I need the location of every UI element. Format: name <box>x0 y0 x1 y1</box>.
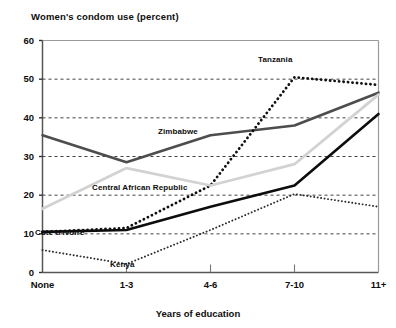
series-line-tanzania <box>43 77 379 232</box>
x-tick-label: None <box>13 279 73 290</box>
chart-figure: Women's condom use (percent) 01020304050… <box>0 0 396 328</box>
series-label-zimbabwe: Zimbabwe <box>158 127 198 136</box>
x-tick-marks <box>127 265 295 273</box>
x-tick-label: 7-10 <box>265 279 325 290</box>
y-tick-label: 30 <box>12 151 34 162</box>
x-tick-label: 4-6 <box>181 279 241 290</box>
series-label-kenya: Kenya <box>110 260 135 269</box>
series-line-zimbabwe <box>43 93 379 163</box>
y-tick-label: 40 <box>12 112 34 123</box>
series-label-c-te-d-ivoire: Côte d'Ivoire <box>35 228 84 237</box>
y-tick-label: 0 <box>12 267 34 278</box>
x-tick-label: 1-3 <box>97 279 157 290</box>
y-tick-label: 50 <box>12 73 34 84</box>
x-axis-title: Years of education <box>0 308 396 319</box>
series-lines <box>43 77 379 264</box>
y-tick-label: 10 <box>12 228 34 239</box>
y-tick-label: 20 <box>12 189 34 200</box>
series-line-c-te-d-ivoire <box>43 114 379 232</box>
series-label-tanzania: Tanzania <box>258 55 292 64</box>
x-tick-label: 11+ <box>349 279 396 290</box>
y-tick-label: 60 <box>12 35 34 46</box>
series-label-central-african-republic: Central African Republic <box>92 183 187 192</box>
